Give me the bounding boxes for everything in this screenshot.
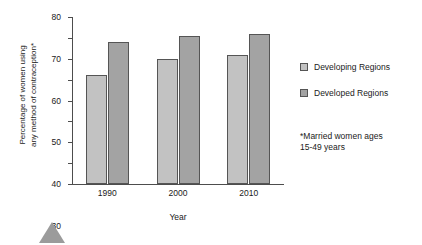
bar-1990-developed-regions [108,42,129,184]
y-axis-title: Percentage of women using any method of … [18,43,39,147]
y-tick-label: 60 [52,96,61,106]
y-tick-mark: 20 [68,142,72,143]
bar-chart-figure: Percentage of women using any method of … [0,0,422,245]
x-axis-line [72,184,284,185]
y-tick-label: 50 [52,137,61,147]
bar-2010-developing-regions [227,55,248,184]
footnote-text: *Married women ages 15-49 years [300,131,383,153]
y-axis-line [72,17,73,185]
legend-swatch-icon [300,89,308,97]
bar-2000-developed-regions [179,36,200,184]
x-axis-title: Year [169,212,186,222]
x-tick-label-2010: 2010 [239,188,258,198]
y-tick-label: 40 [52,179,61,189]
y-axis-title-container: Percentage of women using any method of … [0,0,56,190]
y-tick-mark: 40 [68,101,72,102]
y-tick-mark: 0 [68,184,72,185]
y-tick-mark: 70 [68,38,72,39]
bar-2000-developing-regions [157,59,178,184]
legend-label: Developed Regions [314,88,388,98]
x-tick-label-2000: 2000 [169,188,188,198]
y-tick-label: 70 [52,54,61,64]
legend-item-0: Developing Regions [300,62,390,72]
y-tick-mark: 30 [68,121,72,122]
bar-2010-developed-regions [249,34,270,184]
y-tick-mark: 50 [68,80,72,81]
triangle-up-icon [39,222,65,243]
x-tick-label-1990: 1990 [98,188,117,198]
bar-1990-developing-regions [86,75,107,184]
legend-label: Developing Regions [314,62,390,72]
legend-item-1: Developed Regions [300,88,390,98]
y-tick-mark: 10 [68,163,72,164]
plot-area: 01020304050607080 [72,17,284,185]
y-tick-label: 80 [52,12,61,22]
y-tick-mark: 60 [68,59,72,60]
chart-legend: Developing RegionsDeveloped Regions [300,62,390,114]
y-tick-mark: 80 [68,17,72,18]
legend-swatch-icon [300,63,308,71]
